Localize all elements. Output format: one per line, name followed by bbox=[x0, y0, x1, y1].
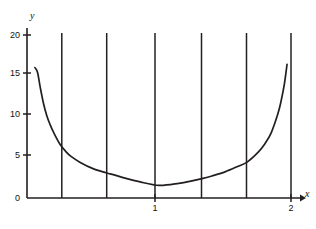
x-tick-label-2: 2 bbox=[281, 203, 301, 213]
y-tick-label-0: 0 bbox=[0, 193, 20, 203]
y-tick-label-20: 20 bbox=[0, 30, 20, 40]
y-tick-label-5: 5 bbox=[0, 150, 20, 160]
data-curve bbox=[35, 64, 287, 185]
x-tick-label-1: 1 bbox=[145, 203, 165, 213]
chart-figure: 20 15 10 5 0 1 2 y x bbox=[0, 0, 316, 229]
partition-lines bbox=[62, 33, 291, 198]
y-tick-label-15: 15 bbox=[0, 68, 20, 78]
x-axis-label: x bbox=[305, 188, 309, 199]
y-tick-label-10: 10 bbox=[0, 109, 20, 119]
chart-plot-area bbox=[0, 0, 316, 229]
y-axis-label: y bbox=[30, 10, 34, 21]
